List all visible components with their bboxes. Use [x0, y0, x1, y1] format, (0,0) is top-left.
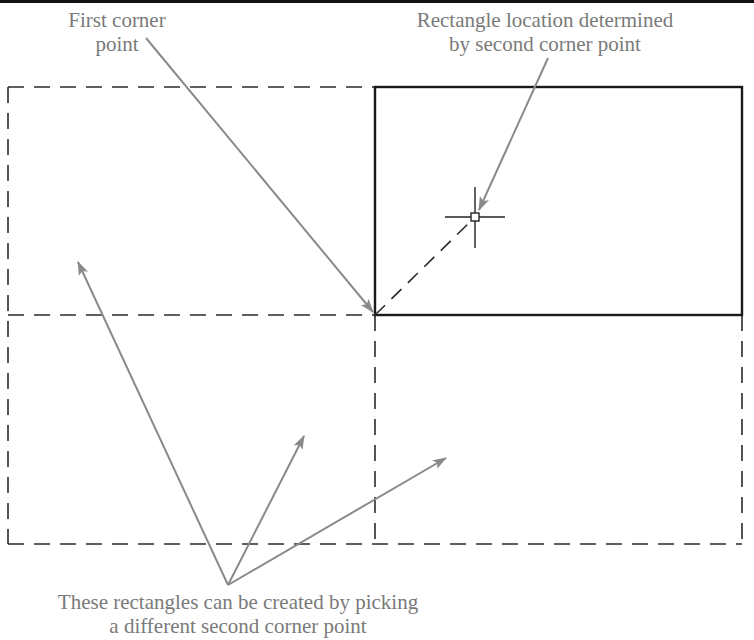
label-first-corner: First corner point — [52, 8, 182, 56]
label-other-rects-line1: These rectangles can be created by picki… — [48, 590, 428, 614]
arrow-rect-location — [479, 58, 548, 210]
arrow-first-corner — [146, 38, 373, 312]
top-border-bar — [0, 0, 754, 3]
crosshair-cursor-icon — [445, 187, 505, 248]
arrow-top-left-rect — [78, 262, 228, 585]
label-rectangle-location: Rectangle location determined by second … — [390, 8, 700, 56]
solid-rectangle — [375, 87, 742, 315]
label-first-corner-line2: point — [52, 32, 182, 56]
label-other-rects-line2: a different second corner point — [48, 614, 428, 638]
label-rect-location-line2: by second corner point — [390, 32, 700, 56]
label-rect-location-line1: Rectangle location determined — [390, 8, 700, 32]
rubber-band-line — [375, 221, 471, 315]
label-other-rectangles: These rectangles can be created by picki… — [48, 590, 428, 638]
leader-arrows — [78, 38, 548, 585]
diagram-canvas — [0, 0, 754, 640]
label-first-corner-line1: First corner — [52, 8, 182, 32]
pickbox-icon — [471, 213, 479, 221]
